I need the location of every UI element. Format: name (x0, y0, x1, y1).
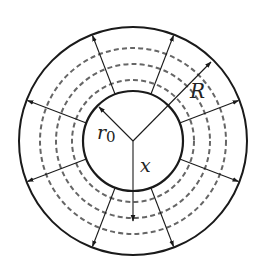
label-x: x (140, 154, 151, 176)
radial-flow-arrow-7 (28, 159, 87, 182)
label-r0-subscript: 0 (106, 128, 116, 146)
radial-flow-arrow-5 (151, 188, 174, 247)
radial-flow-arrow-3 (180, 101, 239, 124)
radial-flow-arrow-1 (93, 36, 116, 95)
radial-flow-arrow-2 (151, 36, 174, 95)
radial-flow-arrow-4 (180, 159, 239, 182)
label-r0: r0 (97, 121, 116, 146)
radial-flow-diagram: R r0 x (0, 0, 263, 273)
radial-flow-arrow-8 (28, 101, 87, 124)
label-R: R (189, 79, 205, 103)
radial-flow-arrow-6 (93, 188, 116, 247)
